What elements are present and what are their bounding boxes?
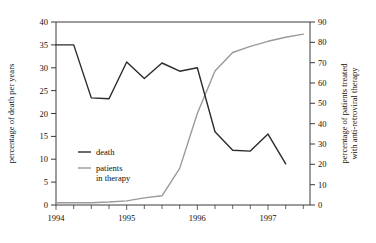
x-tick-label-1995: 1995 xyxy=(118,213,135,223)
left-y-tick-label: 35 xyxy=(40,40,49,50)
left-y-tick-label: 25 xyxy=(40,86,49,96)
right-y-tick-label: 70 xyxy=(318,58,327,68)
x-tick-label-1994: 1994 xyxy=(48,213,66,223)
left-y-tick-label: 10 xyxy=(40,154,49,164)
right-y-axis-title-line2: with anti-retroviral therapy xyxy=(349,67,359,160)
left-y-tick-label: 0 xyxy=(44,200,48,210)
right-y-tick-label: 0 xyxy=(318,200,322,210)
left-y-tick-label: 40 xyxy=(40,17,49,27)
right-y-tick-label: 10 xyxy=(318,180,327,190)
chart-figure: 0 5 10 15 20 25 30 35 40 0 10 20 xyxy=(0,0,376,243)
right-y-tick-label: 60 xyxy=(318,78,327,88)
left-y-axis-title: percentage of death per years xyxy=(6,64,16,164)
left-y-tick-label: 20 xyxy=(40,109,49,119)
right-y-tick-label: 90 xyxy=(318,17,327,27)
left-y-tick-label: 30 xyxy=(40,63,49,73)
legend-label-patients-cont: in therapy xyxy=(96,173,131,183)
right-y-tick-label: 80 xyxy=(318,37,327,47)
legend-label-patients: patients xyxy=(96,163,122,173)
right-y-tick-label: 40 xyxy=(318,119,327,129)
right-y-tick-label: 50 xyxy=(318,98,327,108)
right-y-tick-label: 20 xyxy=(318,159,327,169)
left-y-tick-label: 5 xyxy=(44,177,48,187)
x-tick-label-1997: 1997 xyxy=(260,213,277,223)
right-y-axis-title-line1: percentage of patients treated xyxy=(339,63,349,164)
dual-axis-line-chart: 0 5 10 15 20 25 30 35 40 0 10 20 xyxy=(0,0,376,243)
left-y-tick-label: 15 xyxy=(40,131,49,141)
x-tick-label-1996: 1996 xyxy=(189,213,206,223)
legend-label-death: death xyxy=(96,147,115,157)
right-y-tick-label: 30 xyxy=(318,139,327,149)
